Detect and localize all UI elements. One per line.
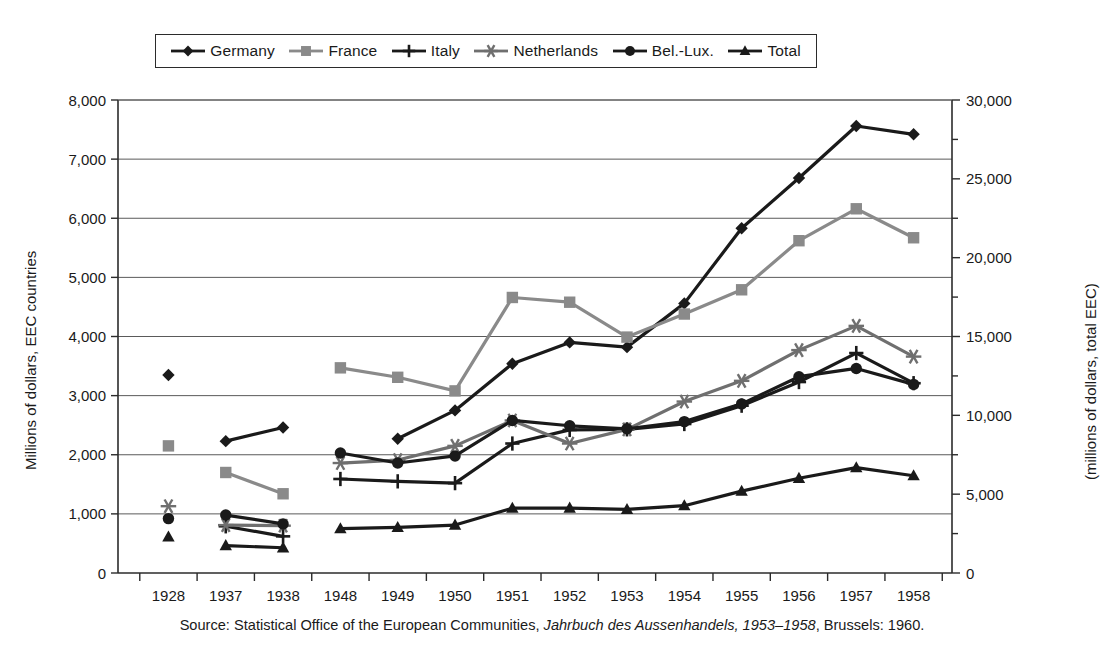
data-point <box>220 509 231 520</box>
svg-text:10,000: 10,000 <box>966 407 1012 424</box>
x-tick-label: 1951 <box>496 587 529 604</box>
series-total <box>162 461 920 552</box>
data-point <box>392 457 403 468</box>
data-point <box>507 292 518 303</box>
data-point <box>793 235 804 246</box>
data-point <box>907 128 919 140</box>
gridlines <box>118 100 952 514</box>
series-netherlands <box>161 319 922 533</box>
svg-text:7,000: 7,000 <box>68 151 106 168</box>
svg-text:2,000: 2,000 <box>68 446 106 463</box>
data-point <box>564 420 575 431</box>
x-tick-label: 1949 <box>381 587 414 604</box>
data-point <box>679 308 690 319</box>
svg-text:20,000: 20,000 <box>966 249 1012 266</box>
data-point <box>163 513 174 524</box>
chart-svg: 01,0002,0003,0004,0005,0006,0007,0008,00… <box>0 0 1104 657</box>
chart-plot-area: 01,0002,0003,0004,0005,0006,0007,0008,00… <box>0 0 1104 657</box>
data-point <box>335 362 346 373</box>
data-point <box>849 319 865 334</box>
svg-text:3,000: 3,000 <box>68 387 106 404</box>
data-point <box>161 499 177 514</box>
data-point <box>277 421 289 433</box>
source-title: Jahrbuch des Aussenhandels, 1953–1958 <box>544 617 816 633</box>
data-point <box>220 467 231 478</box>
data-point <box>277 518 288 529</box>
data-point <box>220 435 232 447</box>
data-point <box>162 369 174 381</box>
x-tick-label: 1957 <box>840 587 873 604</box>
x-tick-label: 1950 <box>438 587 471 604</box>
data-point <box>392 433 404 445</box>
data-point <box>908 379 919 390</box>
data-point <box>449 385 460 396</box>
source-prefix: Source: Statistical Office of the Europe… <box>180 617 544 633</box>
data-point <box>677 394 693 409</box>
svg-text:5,000: 5,000 <box>966 486 1004 503</box>
data-point <box>449 450 460 461</box>
x-axis-ticks: 1928193719381948194919501951195219531954… <box>140 573 942 604</box>
x-tick-label: 1928 <box>152 587 185 604</box>
data-point <box>908 232 919 243</box>
data-point <box>392 372 403 383</box>
data-point <box>564 297 575 308</box>
data-point <box>906 349 922 364</box>
x-tick-label: 1956 <box>782 587 815 604</box>
data-point <box>791 343 807 358</box>
data-point <box>679 416 690 427</box>
svg-text:1,000: 1,000 <box>68 505 106 522</box>
x-tick-label: 1953 <box>610 587 643 604</box>
source-suffix: , Brussels: 1960. <box>816 617 925 633</box>
svg-text:0: 0 <box>98 565 106 582</box>
x-tick-label: 1948 <box>324 587 357 604</box>
x-tick-label: 1955 <box>725 587 758 604</box>
y-axis-left-ticks: 01,0002,0003,0004,0005,0006,0007,0008,00… <box>68 92 118 582</box>
data-point <box>851 363 862 374</box>
data-point <box>507 415 518 426</box>
data-point <box>736 284 747 295</box>
source-caption: Source: Statistical Office of the Europe… <box>0 617 1104 633</box>
data-point <box>163 440 174 451</box>
data-point <box>335 447 346 458</box>
svg-text:15,000: 15,000 <box>966 328 1012 345</box>
data-point <box>162 530 174 541</box>
x-tick-label: 1938 <box>266 587 299 604</box>
data-point <box>851 203 862 214</box>
data-point <box>849 346 863 360</box>
data-point <box>333 472 347 486</box>
svg-text:25,000: 25,000 <box>966 170 1012 187</box>
series-germany <box>162 120 920 448</box>
data-point <box>277 488 288 499</box>
data-point <box>562 436 578 451</box>
data-point <box>391 474 405 488</box>
svg-text:6,000: 6,000 <box>68 210 106 227</box>
x-tick-label: 1952 <box>553 587 586 604</box>
svg-text:5,000: 5,000 <box>68 269 106 286</box>
data-point <box>793 371 804 382</box>
x-tick-label: 1937 <box>209 587 242 604</box>
x-tick-label: 1958 <box>897 587 930 604</box>
data-point <box>563 336 575 348</box>
data-point <box>621 331 632 342</box>
svg-text:0: 0 <box>966 565 974 582</box>
data-point <box>736 398 747 409</box>
data-point <box>734 374 750 389</box>
svg-text:30,000: 30,000 <box>966 92 1012 109</box>
svg-text:4,000: 4,000 <box>68 328 106 345</box>
data-point <box>621 423 632 434</box>
y-axis-right-ticks: 05,00010,00015,00020,00025,00030,000 <box>952 92 1012 582</box>
series-bel-lux <box>163 363 920 530</box>
svg-text:8,000: 8,000 <box>68 92 106 109</box>
x-tick-label: 1954 <box>668 587 701 604</box>
